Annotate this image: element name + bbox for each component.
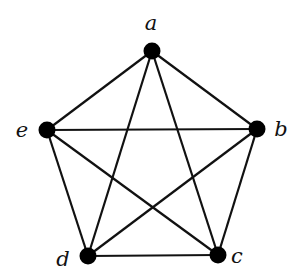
node-label-a: a (145, 11, 158, 35)
node-label-d: d (56, 247, 69, 271)
edge-b-e (47, 129, 257, 130)
edge-c-d (88, 255, 218, 256)
node-d (80, 248, 97, 265)
node-b (249, 121, 266, 138)
edge-a-b (152, 51, 257, 129)
node-a (144, 43, 161, 60)
edge-a-c (152, 51, 218, 255)
edge-b-c (218, 129, 257, 255)
graph-diagram: a b c d e (0, 0, 305, 278)
node-label-c: c (231, 244, 243, 268)
node-label-e: e (16, 118, 28, 142)
node-e (39, 122, 56, 139)
edge-c-e (47, 130, 218, 255)
edge-a-e (47, 51, 152, 130)
edge-d-e (47, 130, 88, 256)
edge-a-d (88, 51, 152, 256)
nodes (39, 43, 266, 265)
node-label-b: b (274, 117, 287, 141)
edge-b-d (88, 129, 257, 256)
node-c (210, 247, 227, 264)
edges (47, 51, 257, 256)
